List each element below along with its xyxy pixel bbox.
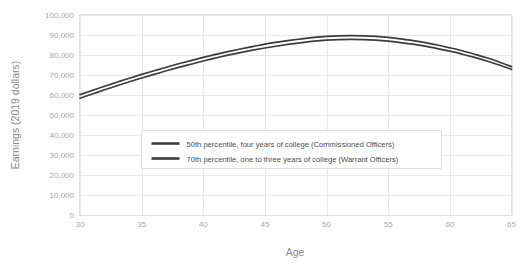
- y-tick-label: 50,000: [50, 111, 75, 120]
- y-tick-label: 30,000: [50, 151, 75, 160]
- y-tick-label: 100,000: [45, 11, 74, 20]
- x-tick-label: 35: [137, 220, 146, 229]
- chart-canvas: 010,00020,00030,00040,00050,00060,00070,…: [0, 0, 526, 266]
- x-tick-label: 30: [76, 220, 85, 229]
- legend-label-0: 50th percentile, four years of college (…: [187, 140, 395, 149]
- y-tick-label: 80,000: [50, 51, 75, 60]
- x-axis-title: Age: [286, 246, 305, 258]
- chart-legend[interactable]: 50th percentile, four years of college (…: [142, 131, 442, 169]
- legend-label-1: 70th percentile, one to three years of c…: [187, 155, 399, 164]
- y-tick-label: 60,000: [50, 91, 75, 100]
- x-tick-label: 55: [384, 220, 393, 229]
- y-tick-label: 20,000: [50, 171, 75, 180]
- x-tick-label: 65: [507, 220, 516, 229]
- earnings-by-age-line-chart: 010,00020,00030,00040,00050,00060,00070,…: [0, 0, 526, 266]
- y-axis-title: Earnings (2019 dollars): [9, 61, 21, 170]
- x-tick-label: 45: [260, 220, 269, 229]
- y-tick-label: 40,000: [50, 131, 75, 140]
- y-tick-label: 70,000: [50, 71, 75, 80]
- x-tick-label: 50: [322, 220, 331, 229]
- y-tick-label: 10,000: [50, 191, 75, 200]
- x-tick-label: 60: [445, 220, 454, 229]
- y-tick-label: 0: [70, 211, 75, 220]
- y-tick-label: 90,000: [50, 31, 75, 40]
- x-tick-label: 40: [199, 220, 208, 229]
